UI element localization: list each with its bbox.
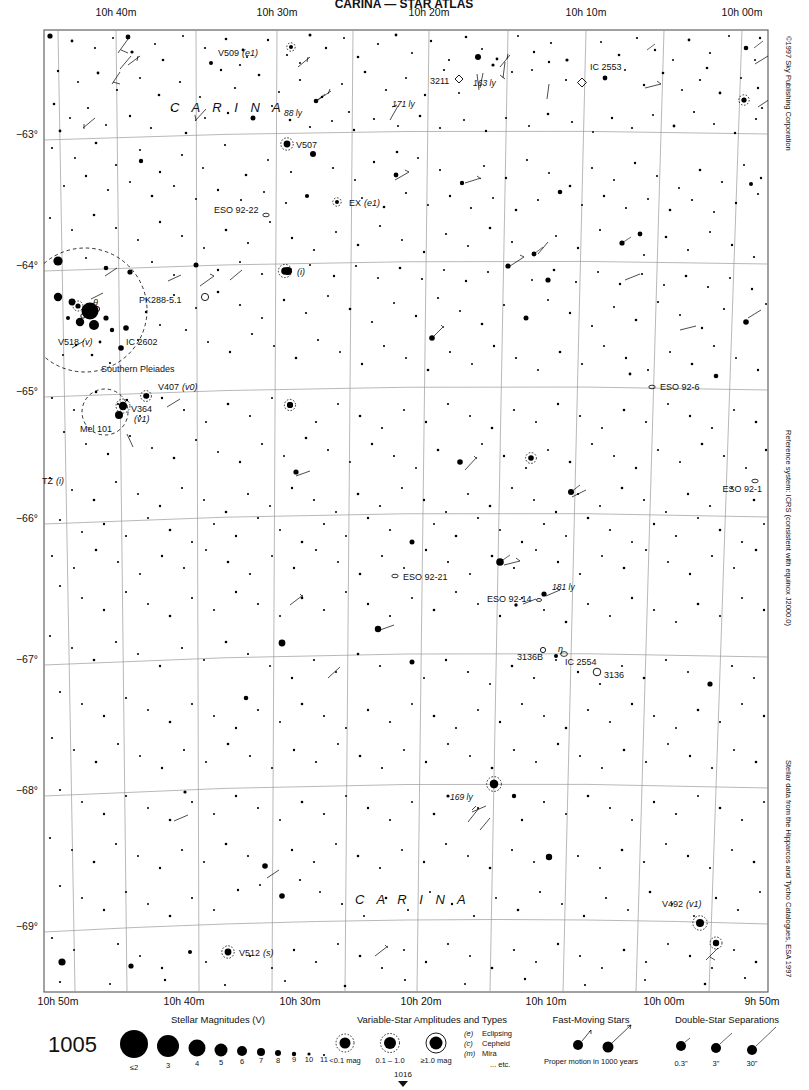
distance-label: 88 ly	[284, 108, 303, 118]
variable-star-i	[281, 267, 289, 275]
dec-tick-label: −65°	[16, 385, 38, 397]
variable-star-v509	[289, 45, 293, 49]
label-v507: V507	[296, 140, 317, 150]
legend-type-etc: ... etc.	[490, 1060, 510, 1069]
page-ref-number: 1016	[394, 1070, 412, 1079]
label-3136b: 3136B	[517, 652, 543, 662]
variable-star-marker	[287, 402, 293, 408]
ra-tick-label: 10h 30m	[280, 995, 321, 1007]
legend-type-name: Mira	[482, 1049, 497, 1058]
distance-label: 169 ly	[450, 792, 473, 802]
label-eso92-6: ESO 92-6	[660, 382, 700, 392]
legend-type-code: (e)	[464, 1029, 474, 1038]
legend-magnitudes-title: Stellar Magnitudes (V)	[171, 1014, 265, 1025]
dec-tick-label: −63°	[16, 128, 38, 140]
distance-label: 181 ly	[552, 582, 575, 592]
legend-doublestars-title: Double-Star Separations	[675, 1014, 779, 1025]
ra-tick-label: 10h 20m	[401, 995, 442, 1007]
chart-number: 1005	[48, 1032, 97, 1057]
ra-tick-label: 10h 20m	[409, 6, 450, 18]
constellation-label: C A R I N A	[170, 100, 285, 115]
legend-fastmoving-caption: Proper motion in 1000 years	[544, 1057, 638, 1066]
label-i-variable: (i)	[297, 267, 305, 277]
legend-amplitude-label: <0.1 mag	[329, 1056, 360, 1065]
legend-amplitude-label: 0.1 – 1.0	[375, 1056, 404, 1065]
ra-tick-label: 10h 40m	[96, 6, 137, 18]
legend-mag-label: 3	[166, 1061, 170, 1070]
ra-tick-label: 9h 50m	[744, 995, 779, 1007]
variable-star-v512	[225, 949, 232, 956]
label-ex: EX(e1)	[349, 198, 380, 208]
dec-tick-label: −69°	[16, 920, 38, 932]
variable-star-marker	[741, 97, 746, 102]
label-eso92-14: ESO 92-14	[487, 594, 532, 604]
legend-mag-label: 11	[320, 1055, 328, 1064]
ra-tick-label: 10h 50m	[38, 995, 79, 1007]
legend-mag-label: ≤2	[130, 1063, 138, 1072]
ra-tick-label: 10h 10m	[566, 6, 607, 18]
legend-amplitude-label: ≥1.0 mag	[420, 1056, 451, 1065]
variable-star-v507	[284, 141, 291, 148]
label-southern-pleiades: Southern Pleiades	[101, 364, 175, 374]
label-ic2602: IC 2602	[126, 337, 158, 347]
legend-separation-label: 0.3"	[674, 1059, 687, 1068]
copyright-note: ©1997 Sky Publishing Corporation	[784, 36, 793, 151]
variable-star-marker	[528, 455, 534, 461]
label-v492: V492(v1)	[662, 899, 702, 909]
ra-tick-label: 10h 30m	[257, 6, 298, 18]
variable-star-ex	[335, 200, 339, 204]
legend-type-code: (m)	[464, 1049, 476, 1058]
distance-label: 171 ly	[392, 99, 415, 109]
variable-star-v492	[696, 919, 704, 927]
constellation-label: C A R I N A	[355, 892, 470, 907]
legend-mag-label: 5	[219, 1058, 223, 1067]
label-eso92-21: ESO 92-21	[403, 572, 448, 582]
label-3136: 3136	[604, 670, 624, 680]
dec-tick-label: −66°	[16, 512, 38, 524]
distance-label: 163 ly	[473, 78, 496, 88]
label-pk288: PK288-5.1	[139, 295, 182, 305]
dec-tick-label: −64°	[16, 259, 38, 271]
star-chart-page: CARINA — STAR ATLAS 10h 40m 10h 30m 10h …	[0, 0, 809, 1090]
dec-tick-label: −68°	[16, 784, 38, 796]
legend-type-name: Eclipsing	[482, 1029, 512, 1038]
variable-star-marker	[713, 940, 719, 946]
reference-system-note: Reference system: ICRS (consistent with …	[784, 430, 793, 626]
variable-star-marker	[490, 780, 498, 788]
variable-star-v407	[143, 393, 149, 399]
page-background	[0, 0, 809, 1090]
label-v407: V407(v0)	[158, 382, 198, 392]
label-mel101: Mel 101	[80, 424, 112, 434]
ra-tick-label: 10h 00m	[722, 6, 763, 18]
label-ic2553: IC 2553	[590, 62, 622, 72]
legend-mag-label: 7	[259, 1056, 263, 1065]
ra-tick-label: 10h 40m	[164, 995, 205, 1007]
label-v512: V512(s)	[239, 948, 274, 958]
legend-type-code: (c)	[464, 1039, 473, 1048]
variable-star-v364	[119, 402, 127, 410]
label-theta: θ	[93, 298, 98, 308]
legend-type-name: Cepheid	[482, 1039, 510, 1048]
legend-mag-label: 9	[292, 1055, 296, 1064]
legend-mag-label: 10	[305, 1055, 313, 1064]
variable-star-v518	[75, 303, 80, 308]
legend-fastmoving-title: Fast-Moving Stars	[552, 1014, 629, 1025]
legend-mag-label: 6	[240, 1057, 244, 1066]
label-3211: 3211	[430, 76, 449, 86]
dec-tick-label: −67°	[16, 653, 38, 665]
label-v518: V518(v)	[58, 337, 93, 347]
label-v364-type: (v1)	[134, 414, 150, 424]
label-v509: V509(e1)	[218, 48, 258, 58]
legend-mag-label: 8	[276, 1056, 280, 1065]
page-title: CARINA — STAR ATLAS	[335, 0, 474, 11]
label-v364: V364	[131, 404, 152, 414]
legend-variables-title: Variable-Star Amplitudes and Types	[357, 1014, 507, 1025]
label-ic2554: IC 2554	[565, 657, 597, 667]
label-eta: η	[558, 644, 563, 654]
label-eso92-1: ESO 92-1	[722, 484, 762, 494]
ra-tick-label: 10h 00m	[644, 995, 685, 1007]
ra-tick-label: 10h 10m	[526, 995, 567, 1007]
legend-separation-label: 30"	[746, 1059, 757, 1068]
data-source-note: Stellar data from the Hipparcos and Tych…	[784, 760, 793, 978]
label-eso92-22: ESO 92-22	[214, 205, 259, 215]
